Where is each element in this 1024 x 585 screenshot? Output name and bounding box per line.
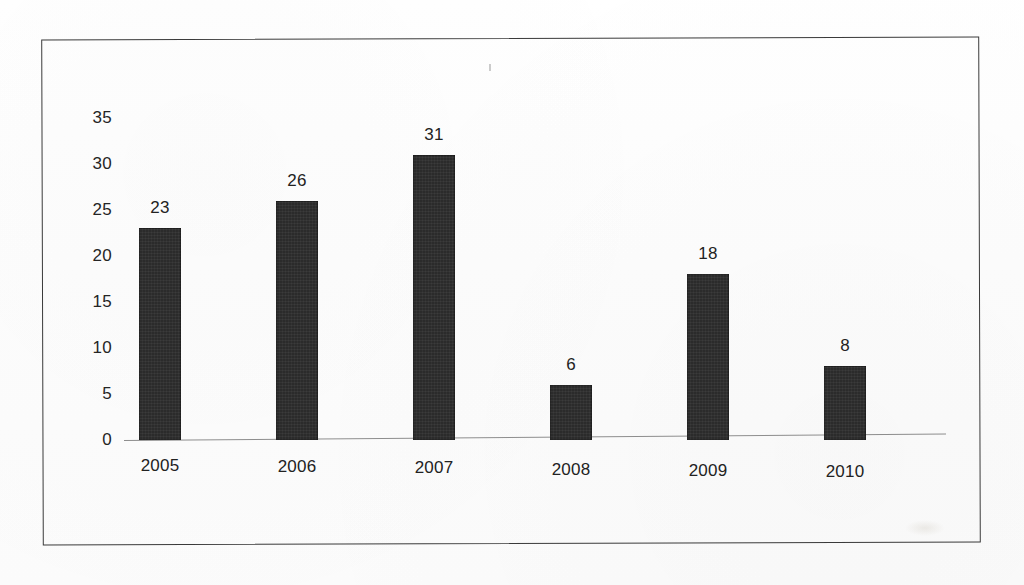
bar-value-label-2008: 6 [531, 355, 611, 375]
bar-value-label-2005: 23 [120, 198, 200, 218]
bar-2010[interactable] [824, 366, 866, 440]
chart-page: 35302520151050 2320052620063120076200818… [0, 0, 1024, 585]
x-axis-category-2010: 2010 [800, 462, 890, 482]
x-axis-category-2009: 2009 [663, 461, 753, 481]
x-axis-category-2008: 2008 [526, 460, 616, 480]
bar-2009[interactable] [687, 274, 729, 440]
x-axis-category-2005: 2005 [115, 456, 205, 476]
bar-2008[interactable] [550, 385, 592, 440]
x-axis-category-2007: 2007 [389, 458, 479, 478]
bar-2005[interactable] [139, 228, 181, 440]
bar-value-label-2006: 26 [257, 171, 337, 191]
bar-series: 2320052620063120076200818200982010 [0, 0, 1024, 585]
bar-value-label-2010: 8 [805, 336, 885, 356]
bar-value-label-2007: 31 [394, 125, 474, 145]
bar-value-label-2009: 18 [668, 244, 748, 264]
x-axis-category-2006: 2006 [252, 457, 342, 477]
bar-chart-plot-area: 35302520151050 2320052620063120076200818… [0, 0, 1024, 585]
bar-2007[interactable] [413, 155, 455, 440]
bar-2006[interactable] [276, 201, 318, 440]
